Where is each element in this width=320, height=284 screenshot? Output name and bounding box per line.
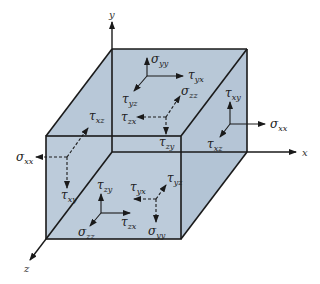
diagram-canvas: y x z σyy τyx τyz σzz τz xyxy=(0,0,320,284)
y-axis-label: y xyxy=(108,9,115,20)
label-sigma-xx-left: σxx xyxy=(16,150,34,166)
label-sigma-xx-right: σxx xyxy=(270,117,288,133)
z-axis xyxy=(30,239,46,260)
stress-element-diagram: y x z σyy τyx τyz σzz τz xyxy=(0,0,320,284)
z-axis-label: z xyxy=(23,263,30,274)
x-axis-label: x xyxy=(302,147,308,158)
